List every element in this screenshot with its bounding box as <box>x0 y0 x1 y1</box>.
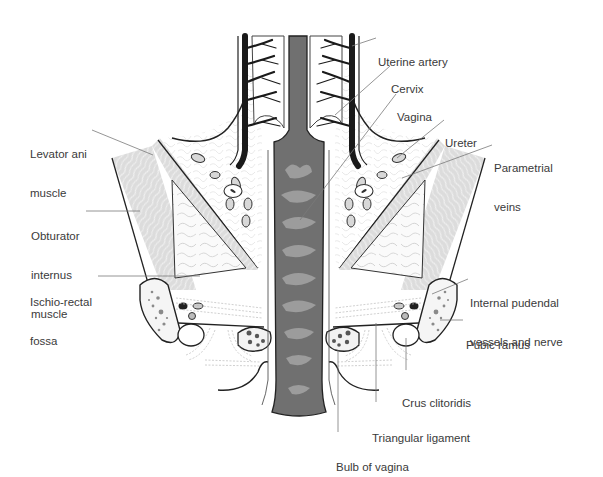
label-pubic-ramus: Pubic ramus <box>466 313 530 365</box>
label-vagina: Vagina <box>397 85 432 137</box>
label-levator-ani: Levator ani muscle <box>30 122 87 213</box>
label-bulb-of-vagina: Bulb of vagina <box>336 435 409 477</box>
label-ischio-rectal-fossa: Ischio-rectal fossa <box>30 270 92 361</box>
bulb-of-vagina-left <box>238 327 271 351</box>
crus-clitoridis-left <box>178 324 204 346</box>
label-ureter: Ureter <box>445 111 477 163</box>
label-parametrial-veins: Parametrial veins <box>494 136 553 227</box>
